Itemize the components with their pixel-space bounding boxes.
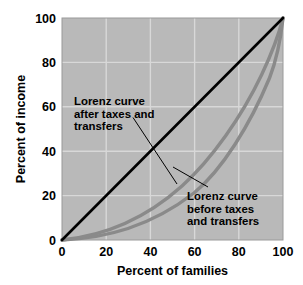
x-tick-label-100: 100	[273, 245, 294, 259]
annotation-after-taxes-line-3: transfers	[74, 120, 123, 132]
y-tick-label-60: 60	[42, 100, 56, 114]
y-tick-label-80: 80	[42, 56, 56, 70]
x-tick-label-20: 20	[99, 245, 113, 259]
y-tick-label-40: 40	[42, 145, 56, 159]
annotation-before-taxes: Lorenz curve before taxes and transfers	[187, 190, 259, 227]
annotation-before-taxes-line-1: Lorenz curve	[187, 190, 258, 202]
y-tick-label-100: 100	[35, 12, 56, 26]
annotation-after-taxes-line-2: after taxes and	[74, 108, 154, 120]
annotation-after-taxes-line-1: Lorenz curve	[74, 95, 145, 107]
y-axis-title: Percent of income	[14, 75, 28, 183]
x-tick-label-0: 0	[59, 245, 66, 259]
lorenz-curve-figure: Lorenz curve after taxes and transfers L…	[0, 0, 303, 285]
x-tick-label-80: 80	[232, 245, 246, 259]
x-tick-label-40: 40	[143, 245, 157, 259]
annotation-before-taxes-line-2: before taxes	[187, 203, 254, 215]
x-axis-tick-labels: 0 20 40 60 80 100	[59, 245, 294, 259]
x-axis-title: Percent of families	[117, 264, 228, 278]
y-tick-label-0: 0	[49, 234, 56, 248]
x-tick-label-60: 60	[188, 245, 202, 259]
y-axis-tick-labels: 0 20 40 60 80 100	[35, 12, 56, 248]
y-tick-label-20: 20	[42, 189, 56, 203]
annotation-before-taxes-line-3: and transfers	[187, 215, 259, 227]
chart-canvas: Lorenz curve after taxes and transfers L…	[0, 0, 303, 285]
